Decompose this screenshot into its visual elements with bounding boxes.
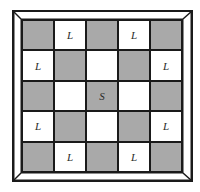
board-grid: L L L L S L L L L [21,19,183,173]
board-cell: L [55,21,85,49]
board-cell [23,143,53,171]
board-cell: L [55,143,85,171]
board-cell: L [119,21,149,49]
board-cell [87,51,117,79]
board-cell [87,112,117,140]
board-cell: L [23,112,53,140]
board-cell [87,143,117,171]
board-cell [151,21,181,49]
board-cell [87,21,117,49]
board-cell [55,82,85,110]
board-cell [55,112,85,140]
board-cell [119,112,149,140]
board-cell: L [23,51,53,79]
board-cell [55,51,85,79]
board-cell [119,51,149,79]
board-cell: L [151,51,181,79]
board-cell [151,82,181,110]
board-cell: L [119,143,149,171]
board-cell [23,82,53,110]
center-cell: S [87,82,117,110]
board-cell [151,143,181,171]
board-cell [23,21,53,49]
board-cell: L [151,112,181,140]
board-cell [119,82,149,110]
